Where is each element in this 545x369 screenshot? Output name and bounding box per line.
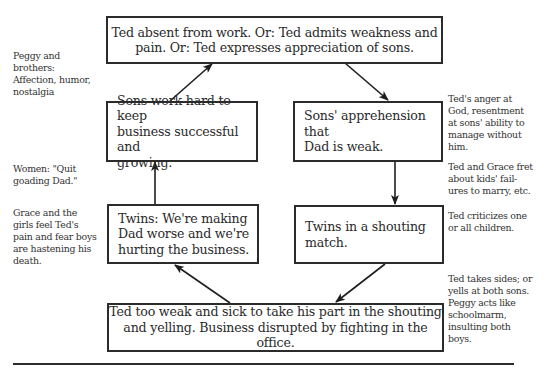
node-top-line-2: pain. Or: Ted expresses appreciation of … [111,40,437,56]
arrow-right-lower-to-bottom [336,264,385,302]
node-left-upper-line-1: Sons work hard to keep [117,93,252,124]
node-left-lower: Twins: We're making Dad worse and we're … [107,204,259,264]
node-right-upper: Sons' apprehension that Dad is weak. [293,101,443,162]
annotation-right-4-line-6: boys. [448,333,545,345]
node-left-lower-line-3: hurting the business. [118,242,249,258]
annotation-right-2-line-2: about kids' fail- [448,173,545,185]
annotation-right-1-line-1: Ted's anger at [448,93,545,105]
annotation-right-2-line-1: Ted and Grace fret [448,161,545,173]
annotation-right-1-line-2: God, resentment [448,105,545,117]
annotation-left-2: Women: "Quit goading Dad." [13,163,108,187]
annotation-left-1: Peggy and brothers: Affection, humor, no… [13,50,108,98]
annotation-right-4-line-2: yells at both sons. [448,285,545,297]
node-bottom-line-1: Ted too weak and sick to take his part i… [109,304,442,320]
annotation-left-1-line-4: nostalgia [13,86,108,98]
annotation-left-3-line-2: girls feel Ted's [13,219,108,231]
node-left-upper: Sons work hard to keep business successf… [106,101,258,162]
annotation-left-3-line-5: death. [13,255,108,267]
node-top-line-1: Ted absent from work. Or: Ted admits wea… [111,25,437,41]
arrow-bottom-to-left-lower [175,265,230,303]
horizontal-rule [13,363,514,365]
annotation-left-1-line-1: Peggy and [13,50,108,62]
node-bottom-line-2: and yelling. Business disrupted by fight… [109,320,442,351]
node-left-upper-line-3: growing. [117,155,252,171]
annotation-right-1-line-4: manage without [448,129,545,141]
node-bottom: Ted too weak and sick to take his part i… [107,303,444,352]
node-right-lower-line-2: match. [305,235,426,251]
node-top: Ted absent from work. Or: Ted admits wea… [106,16,443,64]
annotation-right-4-line-5: insulting both [448,321,545,333]
annotation-right-1-line-3: at sons' ability to [448,117,545,129]
annotation-right-4-line-3: Peggy acts like [448,297,545,309]
arrow-top-to-right-upper [345,63,388,100]
annotation-right-4-line-1: Ted takes sides; or [448,273,545,285]
node-left-lower-line-2: Dad worse and we're [118,226,249,242]
annotation-left-3-line-4: are hastening his [13,243,108,255]
node-left-lower-line-1: Twins: We're making [118,211,249,227]
node-right-upper-line-1: Sons' apprehension that [304,108,437,139]
annotation-left-2-line-1: Women: "Quit [13,163,108,175]
annotation-left-2-line-2: goading Dad." [13,175,108,187]
node-left-upper-line-2: business successful and [117,124,252,155]
annotation-right-4-line-4: schoolmarm, [448,309,545,321]
annotation-right-1-line-5: him. [448,141,545,153]
annotation-right-3: Ted criticizes one or all children. [448,210,545,234]
annotation-right-2: Ted and Grace fret about kids' fail- ure… [448,161,545,197]
annotation-left-1-line-2: brothers: [13,62,108,74]
annotation-right-1: Ted's anger at God, resentment at sons' … [448,93,545,153]
annotation-left-3: Grace and the girls feel Ted's pain and … [13,207,108,267]
annotation-right-4: Ted takes sides; or yells at both sons. … [448,273,545,345]
annotation-left-3-line-1: Grace and the [13,207,108,219]
annotation-right-2-line-3: ures to marry, etc. [448,185,545,197]
annotation-left-1-line-3: Affection, humor, [13,74,108,86]
annotation-right-3-line-2: or all children. [448,222,545,234]
annotation-right-3-line-1: Ted criticizes one [448,210,545,222]
node-right-lower-line-1: Twins in a shouting [305,219,426,235]
node-right-lower: Twins in a shouting match. [294,205,444,264]
node-right-upper-line-2: Dad is weak. [304,139,437,155]
annotation-left-3-line-3: pain and fear boys [13,231,108,243]
